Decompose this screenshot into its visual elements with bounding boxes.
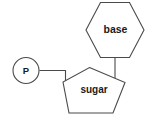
phosphate-sugar-bond [40, 71, 66, 82]
base-label: base [104, 23, 128, 35]
nucleotide-diagram: base sugar P [0, 0, 149, 120]
sugar-label: sugar [80, 84, 107, 95]
nucleotide-diagram-canvas: base sugar P [0, 0, 149, 120]
phosphate-label: P [23, 65, 30, 76]
